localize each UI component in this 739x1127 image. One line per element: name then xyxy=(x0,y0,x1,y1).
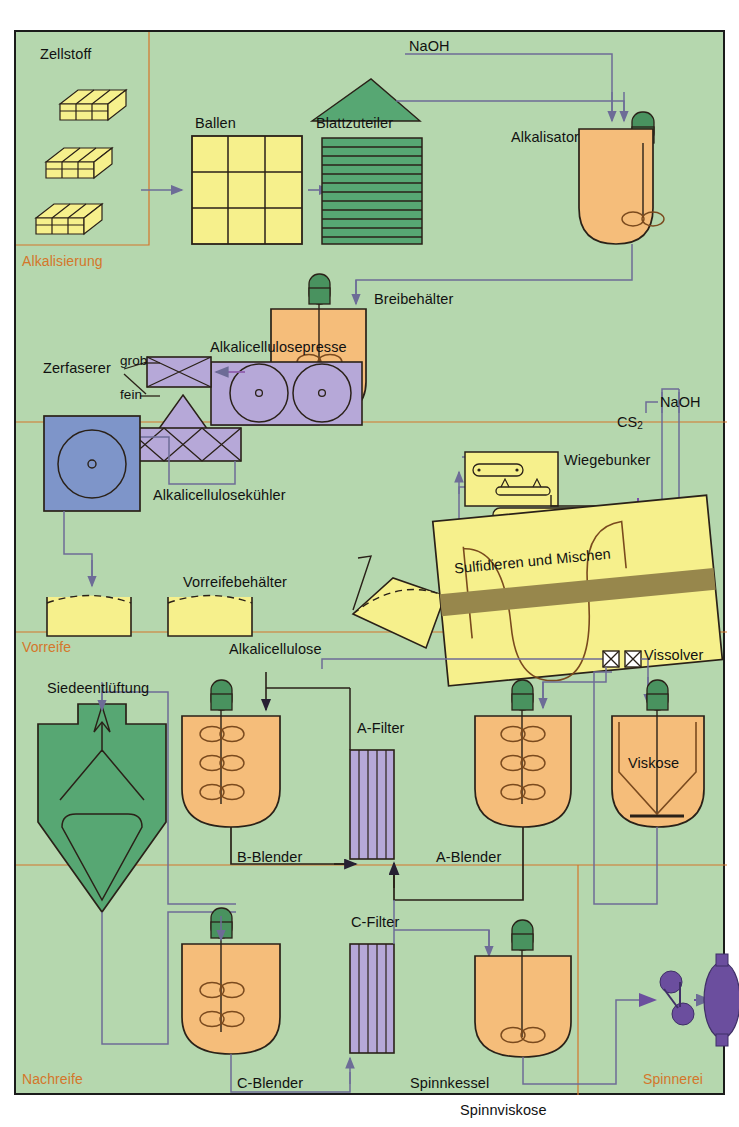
section-label-alkalisierung: Alkalisierung xyxy=(22,253,103,269)
zellstoff-bales xyxy=(36,90,126,234)
label-viskose: Viskose xyxy=(628,755,679,771)
label-grob: grob xyxy=(120,353,147,368)
vorreifebehaelter-2 xyxy=(168,596,252,637)
label-blattzuteiler: Blattzuteiler xyxy=(316,115,393,131)
label-fein: fein xyxy=(120,387,142,402)
label-siedeentlueftung: Siedeentlüftung xyxy=(47,680,149,696)
vorreifebehaelter-group xyxy=(47,556,445,648)
label-vorreifebehaelter: Vorreifebehälter xyxy=(183,574,287,590)
spinnerei-unit xyxy=(639,954,739,1046)
label-breibehaelter: Breibehälter xyxy=(374,291,453,307)
label-vissolver: Vissolver xyxy=(644,647,703,663)
label-c-blender: C-Blender xyxy=(237,1075,303,1091)
label-naoh-top: NaOH xyxy=(409,38,450,54)
c-blender-vessel xyxy=(182,908,280,1054)
label-alkalisator: Alkalisator xyxy=(511,129,579,145)
label-zellstoff: Zellstoff xyxy=(40,46,91,62)
label-b-blender: B-Blender xyxy=(237,849,302,865)
a-blender-vessel xyxy=(475,680,571,827)
diagram-stage: Zellstoff Ballen Blattzuteiler NaOH Alka… xyxy=(0,0,739,1127)
a-filter xyxy=(350,688,394,859)
vorreifebehaelter-3-tilted xyxy=(353,556,445,648)
alkalicellulosekuehler xyxy=(44,416,140,511)
label-naoh-mid: NaOH xyxy=(660,394,701,410)
section-label-nachreife: Nachreife xyxy=(22,1071,83,1087)
label-alkalicellulose: Alkalicellulose xyxy=(229,641,322,657)
vorreifebehaelter-1 xyxy=(47,596,131,637)
label-wiegebunker: Wiegebunker xyxy=(564,452,651,468)
label-spinnviskose: Spinnviskose xyxy=(460,1102,547,1118)
pipe-kuehler-to-vorreife xyxy=(64,511,92,582)
ballen-stack xyxy=(192,136,302,244)
siedeentlueftung xyxy=(38,704,166,912)
process-flow-diagram: Zellstoff Ballen Blattzuteiler NaOH Alka… xyxy=(14,30,725,1095)
label-alkalicellulosekuehler: Alkalicellulosekühler xyxy=(153,487,286,503)
alkalisator-vessel xyxy=(579,112,664,244)
label-c-filter: C-Filter xyxy=(351,914,399,930)
label-cs2: CS2 xyxy=(617,414,643,431)
label-ballen: Ballen xyxy=(195,115,236,131)
arrowheads-alkalisator-inlets xyxy=(612,92,624,121)
pipe-network-top xyxy=(396,54,624,117)
label-a-blender: A-Blender xyxy=(436,849,501,865)
diagram-graphics xyxy=(16,32,727,1097)
section-label-vorreife: Vorreife xyxy=(22,639,71,655)
label-spinnkessel: Spinnkessel xyxy=(410,1075,489,1091)
label-a-filter: A-Filter xyxy=(357,720,405,736)
label-alkalicellulosepresse: Alkalicellulosepresse xyxy=(210,339,347,355)
pipe-into-b-blender xyxy=(266,672,350,710)
label-zerfaserer: Zerfaserer xyxy=(43,360,111,376)
section-label-spinnerei: Spinnerei xyxy=(643,1071,703,1087)
pipe-c-filter-to-spinnkessel xyxy=(394,930,489,956)
viskose-vessel xyxy=(612,680,704,827)
blattzuteiler xyxy=(312,79,422,244)
